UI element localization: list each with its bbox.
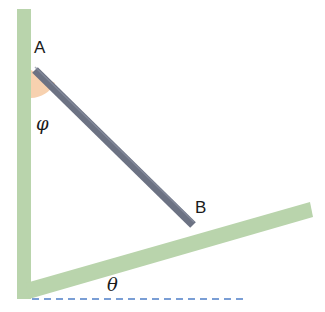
label-point-b: B bbox=[195, 199, 206, 216]
rod-ab-highlight bbox=[35, 67, 194, 222]
incline bbox=[26, 202, 313, 299]
rod-ab bbox=[35, 70, 193, 225]
diagram-graphics bbox=[0, 0, 325, 312]
diagram-canvas: A B φ θ bbox=[0, 0, 325, 312]
label-angle-phi: φ bbox=[36, 115, 49, 133]
label-point-a: A bbox=[34, 39, 45, 56]
wall bbox=[17, 9, 31, 299]
label-angle-theta: θ bbox=[107, 276, 118, 294]
